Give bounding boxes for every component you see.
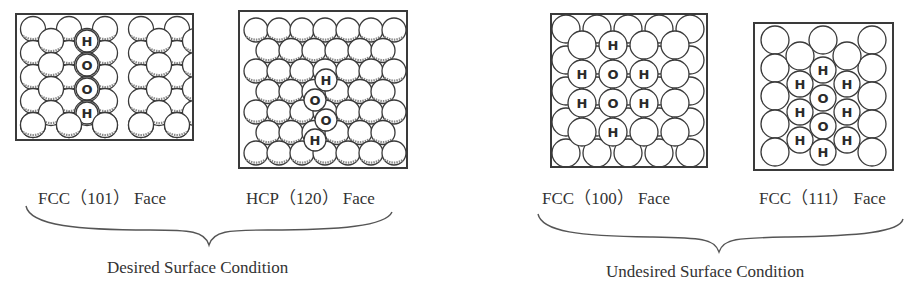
brace-undesired bbox=[538, 214, 903, 252]
brace-desired bbox=[26, 206, 392, 245]
group-label-undesired: Undesired Surface Condition bbox=[606, 262, 804, 282]
group-label-desired: Desired Surface Condition bbox=[107, 258, 288, 278]
